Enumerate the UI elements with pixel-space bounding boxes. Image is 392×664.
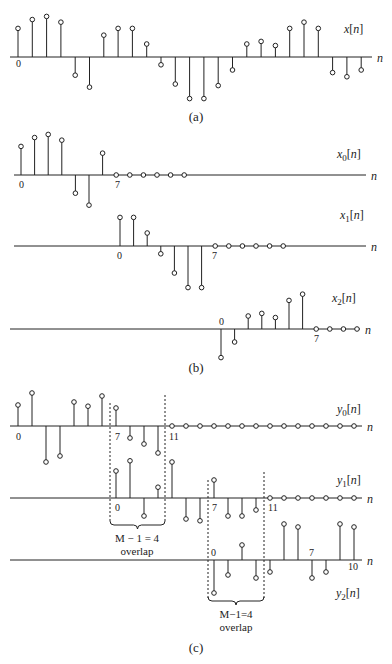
stem-marker — [114, 469, 119, 474]
zero-marker — [355, 327, 360, 332]
zero-marker — [198, 424, 203, 429]
zero-marker — [227, 244, 232, 249]
signal-label: y0[n] — [336, 402, 361, 418]
stem-marker — [59, 20, 64, 25]
stem-marker — [246, 314, 251, 319]
zero-marker — [338, 496, 343, 501]
zero-marker — [324, 496, 329, 501]
tick-label: 7 — [115, 431, 120, 442]
stem-marker — [260, 311, 265, 316]
overlap-add-figure: 0x[n]n (a) 07x0[n]n 07x1[n]n 07x2[n]n (b… — [0, 0, 392, 664]
zero-marker — [170, 424, 175, 429]
stem-marker — [87, 203, 92, 208]
stem-marker — [102, 33, 107, 38]
zero-marker — [352, 424, 357, 429]
zero-marker — [281, 244, 286, 249]
stem-marker — [359, 68, 364, 73]
stem-marker — [114, 406, 119, 411]
zero-marker — [254, 244, 259, 249]
zero-marker — [352, 496, 357, 501]
stem-marker — [268, 570, 273, 575]
n-axis-label: n — [371, 169, 377, 183]
zero-marker — [240, 424, 245, 429]
tick-label: 0 — [115, 502, 120, 513]
n-axis-label: n — [367, 492, 373, 506]
stem-marker — [128, 459, 133, 464]
zero-marker — [310, 496, 315, 501]
stem-marker — [72, 400, 77, 405]
stem-marker — [116, 26, 121, 31]
origin-label: 0 — [117, 250, 122, 261]
panel-a-x-signal: 0x[n]n — [10, 14, 383, 101]
stem-marker — [212, 478, 217, 483]
stem-marker — [324, 570, 329, 575]
n-axis-label: n — [365, 323, 371, 337]
n-axis-label: n — [367, 420, 373, 434]
zero-marker — [282, 424, 287, 429]
stem-marker — [226, 573, 231, 578]
zero-marker — [310, 424, 315, 429]
origin-label: 0 — [16, 58, 21, 69]
stem-marker — [32, 135, 37, 140]
zero-marker — [128, 173, 133, 178]
stem-marker — [30, 17, 35, 22]
stem-marker — [159, 252, 164, 257]
stem-marker — [300, 292, 305, 297]
stem-marker — [58, 454, 63, 459]
caption-b: (b) — [188, 360, 203, 375]
end-label: 7 — [314, 333, 319, 344]
stem-marker — [144, 42, 149, 47]
zero-marker — [213, 244, 218, 249]
caption-a: (a) — [189, 109, 203, 124]
stem-marker — [240, 543, 245, 548]
stem-marker — [128, 436, 133, 441]
stem-marker — [156, 485, 161, 490]
stem-marker — [198, 519, 203, 524]
stem-marker — [46, 132, 51, 137]
end-label: 7 — [212, 250, 217, 261]
stem-marker — [232, 340, 237, 345]
zero-marker — [328, 327, 333, 332]
zero-marker — [254, 424, 259, 429]
zero-marker — [155, 173, 160, 178]
end-label: 7 — [115, 179, 120, 190]
stem-marker — [302, 20, 307, 25]
stem-marker — [287, 298, 292, 303]
stem-marker — [199, 285, 204, 290]
panel-c-y2-signal: 0710y2[n]n — [10, 522, 373, 602]
signal-label: y1[n] — [336, 473, 361, 489]
panel-b-x0-signal: 07x0[n]n — [14, 132, 377, 207]
tick-label: 0 — [16, 431, 21, 442]
stem-marker — [73, 73, 78, 78]
overlap-brace — [110, 521, 165, 529]
zero-marker — [282, 496, 287, 501]
stem-marker — [219, 355, 224, 360]
stem-marker — [330, 70, 335, 75]
stem-marker — [19, 144, 24, 149]
stem-marker — [73, 191, 78, 196]
panel-c-y1-signal: 0711y1[n]n — [10, 459, 373, 524]
stem-marker — [287, 26, 292, 31]
stem-marker — [216, 83, 221, 88]
stem-marker — [187, 96, 192, 101]
stem-marker — [254, 576, 259, 581]
stem-marker — [230, 68, 235, 73]
zero-marker — [184, 424, 189, 429]
stem-marker — [142, 514, 147, 519]
signal-label: y2[n] — [335, 586, 360, 602]
stem-marker — [100, 394, 105, 399]
signal-label: x1[n] — [339, 208, 364, 224]
caption-c: (c) — [189, 640, 203, 655]
stem-marker — [60, 138, 65, 143]
stem-marker — [245, 42, 250, 47]
zero-marker — [324, 424, 329, 429]
origin-label: 0 — [219, 316, 224, 327]
signal-label: x[n] — [343, 22, 363, 36]
stem-marker — [345, 74, 350, 79]
panel-c-y0-signal: 0711y0[n]n — [10, 391, 373, 465]
stem-marker — [44, 14, 49, 19]
tick-label: 11 — [268, 502, 278, 513]
stem-marker — [226, 514, 231, 519]
stem-marker — [145, 231, 150, 236]
tick-label: 11 — [169, 431, 179, 442]
